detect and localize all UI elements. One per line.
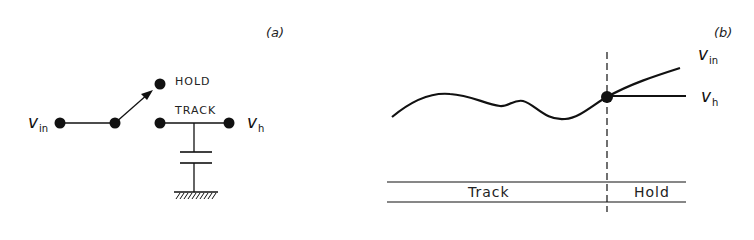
- ground-hatch-icon: [176, 193, 216, 199]
- vin-subscript: in: [39, 123, 48, 134]
- waveform-vh-subscript: h: [712, 97, 718, 108]
- vh-symbol: v: [247, 112, 257, 132]
- track-position-label: TRACK: [175, 104, 216, 117]
- waveform-vin-label: vin: [698, 44, 718, 66]
- hold-mode-label: Hold: [634, 184, 670, 200]
- track-contact-node: [155, 118, 166, 129]
- input-node: [55, 118, 66, 129]
- waveform-vh-symbol: v: [701, 86, 711, 106]
- hold-position-label: HOLD: [175, 75, 211, 88]
- panel-a-label: (a): [266, 25, 284, 40]
- vin-symbol: v: [28, 112, 38, 132]
- sample-point-dot: [601, 91, 613, 103]
- waveform-vh-label: vh: [701, 86, 718, 108]
- output-node: [224, 118, 235, 129]
- panel-b-label: (b): [714, 25, 732, 40]
- vh-label: vh: [247, 112, 264, 134]
- track-mode-label: Track: [468, 184, 510, 200]
- waveform-vin-subscript: in: [709, 55, 718, 66]
- vin-continued-curve: [607, 68, 680, 97]
- vin-label: vin: [28, 112, 48, 134]
- switch-arm: [115, 94, 148, 123]
- input-signal-track-curve: [392, 94, 607, 119]
- switch-pivot-node: [110, 118, 121, 129]
- hold-contact-node: [155, 79, 166, 90]
- vh-subscript: h: [258, 123, 264, 134]
- waveform-vin-symbol: v: [698, 44, 708, 64]
